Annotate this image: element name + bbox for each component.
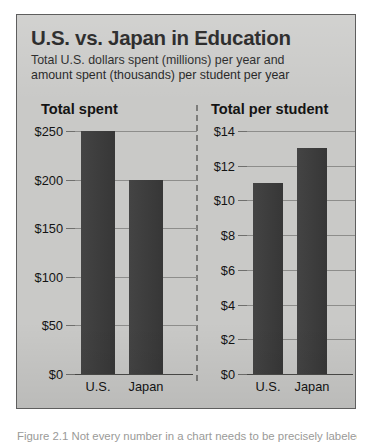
bar [129,180,163,374]
y-axis-tick-label: $250 [35,124,63,139]
axis-tick [66,277,75,278]
axis-tick [238,270,247,271]
y-axis-tick-label: $10 [214,193,235,208]
axis-tick [66,228,75,229]
figure-card: U.S. vs. Japan in Education Total U.S. d… [16,14,356,409]
plot-area-per-student: $0$2$4$6$8$10$12$14 U.S.Japan [247,131,347,374]
y-axis-tick-label: $8 [221,228,235,243]
x-axis-category-label: Japan [295,379,330,394]
axis-tick [238,305,247,306]
page-title: U.S. vs. Japan in Education [31,27,345,49]
x-axis-category-label: U.S. [86,379,111,394]
axis-tick [238,166,247,167]
axis-tick [238,339,247,340]
axis-tick [66,131,75,132]
y-axis-tick-label: $6 [221,262,235,277]
bar [253,183,283,374]
axis-tick [66,180,75,181]
plot-area-total-spent: $0$50$100$150$200$250 U.S.Japan [75,131,187,374]
y-axis-tick-label: $4 [221,297,235,312]
bar [297,148,327,374]
panel-divider [196,105,198,381]
y-axis-tick-label: $14 [214,124,235,139]
figure-caption: Figure 2.1 Not every number in a chart n… [17,429,357,444]
y-axis-tick-label: $0 [221,367,235,382]
y-axis-tick-label: $50 [42,318,63,333]
bar [81,131,115,374]
bars-total-spent: U.S.Japan [75,131,187,374]
y-axis-tick-label: $2 [221,332,235,347]
axis-tick [66,325,75,326]
axis-tick [238,235,247,236]
y-axis-tick-label: $150 [35,221,63,236]
figure-subtitle-line-1: Total U.S. dollars spent (millions) per … [31,53,345,69]
axis-tick [238,374,247,375]
figure-subtitle-line-2: amount spent (thousands) per student per… [31,68,345,84]
chart-title-per-student: Total per student [211,101,328,117]
axis-baseline [75,374,193,375]
y-axis-tick-label: $100 [35,269,63,284]
y-axis-tick-label: $200 [35,172,63,187]
x-axis-category-label: Japan [129,379,164,394]
figure-subtitle: Total U.S. dollars spent (millions) per … [31,53,345,85]
chart-title-total-spent: Total spent [41,101,118,117]
bars-per-student: U.S.Japan [247,131,347,374]
chart-panel-per-student: Total per student $0$2$4$6$8$10$12$14 U.… [203,101,353,408]
axis-tick [66,374,75,375]
axis-baseline [247,374,353,375]
y-axis-tick-label: $0 [49,367,63,382]
y-axis-tick-label: $12 [214,158,235,173]
axis-tick [238,200,247,201]
charts-container: Total spent $0$50$100$150$200$250 U.S.Ja… [17,101,355,408]
figure-header: U.S. vs. Japan in Education Total U.S. d… [31,27,345,84]
chart-panel-total-spent: Total spent $0$50$100$150$200$250 U.S.Ja… [27,101,195,408]
x-axis-category-label: U.S. [256,379,281,394]
axis-tick [238,131,247,132]
